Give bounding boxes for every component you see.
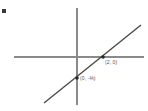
graph-canvas — [0, 0, 148, 111]
label-y-intercept: (0, -⅔) — [80, 76, 95, 81]
label-x-intercept: (2, 0) — [105, 60, 117, 65]
coordinate-plane-figure: (2, 0) (0, -⅔) — [0, 0, 148, 111]
corner-mark-icon — [2, 9, 6, 13]
plotted-line — [44, 25, 141, 103]
point-y-intercept — [75, 76, 79, 80]
